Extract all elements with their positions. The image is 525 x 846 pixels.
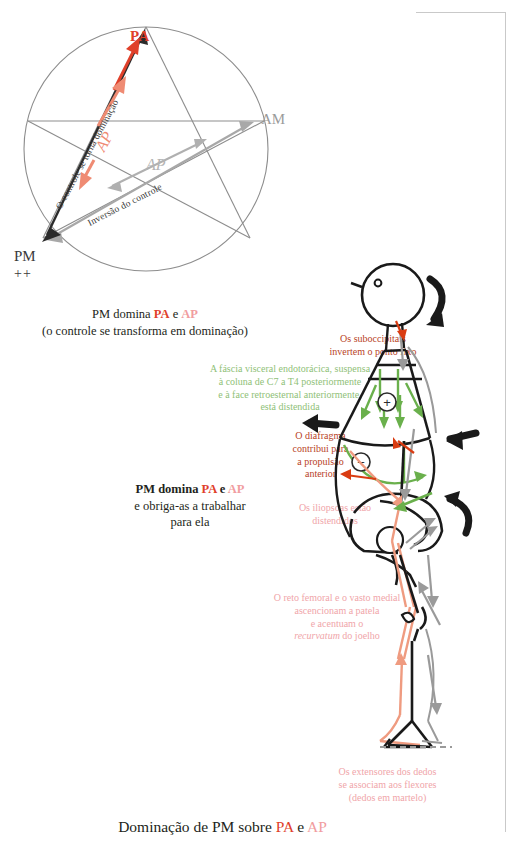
caption1-pa: PA [154,307,170,321]
star-pentagram-diagram: PA AM PM ++ AP AP O controle se torna do… [6,6,296,296]
caption-block-2: PM domina PA e AP e obriga-as a trabalha… [90,481,290,531]
motion-arrow-pelvis [444,491,469,533]
bottom-title-pa: PA [276,818,294,835]
caption1-prefix: PM domina [92,307,154,321]
caption2-prefix: PM domina [136,482,202,496]
page-border-top [416,12,506,13]
star-diagram-svg [6,6,296,296]
star-label-am: AM [261,111,285,128]
bottom-title-prefix: Dominação de PM sobre [118,818,276,835]
caption2-middle: e [217,482,228,496]
caption1-line2: (o controle se transforma em dominação) [10,323,280,340]
bottom-title-middle: e [293,818,307,835]
star-label-ap-grey: AP [146,156,166,174]
motion-arrow-thorax-left [302,414,336,433]
caption2-pa: PA [202,482,217,496]
caption1-line1: PM domina PA e AP [10,306,280,323]
arm-outline [408,347,436,433]
star-label-pa: PA [130,28,150,45]
motion-arrow-head [426,279,444,327]
caption1-ap: AP [181,307,198,321]
plus-sign-label: + [383,395,391,410]
star-label-pm: PM [14,248,36,265]
inner-grey-arrowhead-b [107,182,122,192]
leg-outline [388,555,432,747]
caption2-line2: e obriga-as a trabalhar [90,498,290,515]
anatomical-figure-svg: + − [280,255,525,825]
caption-block-1: PM domina PA e AP (o controle se transfo… [10,306,280,339]
bottom-title-ap: AP [307,818,327,835]
anatomical-figure: + − [280,255,525,825]
page-title: Dominação de PM sobre PA e AP [0,818,445,836]
nose-line [351,283,362,287]
caption2-ap: AP [228,482,245,496]
caption2-line3: para ela [90,514,290,531]
head-outline [351,264,424,326]
motion-arrow-abdomen-right [446,431,476,450]
caption2-line1: PM domina PA e AP [90,481,290,498]
caption1-middle: e [170,307,182,321]
page-root: PA AM PM ++ AP AP O controle se torna do… [0,0,525,846]
status-badge-plus: + [378,393,396,411]
star-label-pm-plus: ++ [14,266,32,282]
patella-outline [402,613,414,622]
eye-icon [375,280,382,287]
